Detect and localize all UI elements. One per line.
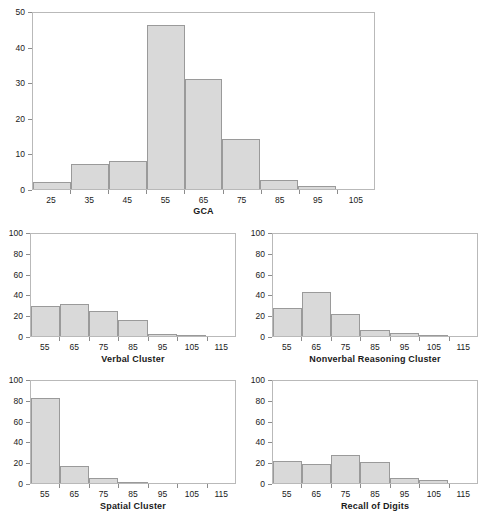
y-tick-verbal-cluster-0 bbox=[26, 337, 30, 338]
y-tick-label-nonverbal-reasoning-cluster-100: 100 bbox=[251, 228, 265, 238]
panel-gca: 01020304050 2535455565758595105 GCA bbox=[0, 0, 400, 220]
y-tick-label-spatial-cluster-20: 20 bbox=[14, 458, 23, 468]
y-tick-gca-50 bbox=[28, 12, 32, 13]
bar-recall-of-digits-65 bbox=[302, 464, 331, 483]
bar-spatial-cluster-65 bbox=[60, 466, 89, 483]
bar-spatial-cluster-75 bbox=[89, 478, 118, 483]
x-tick-label-gca-95: 95 bbox=[313, 195, 322, 205]
bar-gca-55 bbox=[147, 25, 185, 189]
x-tick-gca-8 bbox=[337, 190, 338, 194]
bar-verbal-cluster-65 bbox=[60, 304, 89, 336]
x-tick-label-nonverbal-reasoning-cluster-75: 75 bbox=[341, 342, 350, 352]
y-tick-label-gca-0: 0 bbox=[20, 185, 25, 195]
y-tick-label-recall-of-digits-80: 80 bbox=[256, 396, 265, 406]
bar-recall-of-digits-105 bbox=[419, 480, 448, 483]
y-tick-verbal-cluster-60 bbox=[26, 275, 30, 276]
y-tick-label-spatial-cluster-100: 100 bbox=[9, 375, 23, 385]
bar-verbal-cluster-105 bbox=[177, 335, 206, 336]
x-tick-label-gca-65: 65 bbox=[199, 195, 208, 205]
y-tick-nonverbal-reasoning-cluster-0 bbox=[268, 337, 272, 338]
y-tick-label-spatial-cluster-80: 80 bbox=[14, 396, 23, 406]
x-tick-label-verbal-cluster-105: 105 bbox=[185, 342, 199, 352]
y-tick-nonverbal-reasoning-cluster-40 bbox=[268, 295, 272, 296]
x-tick-recall-of-digits-6 bbox=[449, 484, 450, 488]
x-tick-nonverbal-reasoning-cluster-4 bbox=[390, 337, 391, 341]
x-tick-gca-7 bbox=[299, 190, 300, 194]
x-tick-nonverbal-reasoning-cluster-2 bbox=[331, 337, 332, 341]
x-tick-label-recall-of-digits-65: 65 bbox=[311, 489, 320, 499]
y-tick-label-recall-of-digits-20: 20 bbox=[256, 458, 265, 468]
bar-recall-of-digits-95 bbox=[390, 478, 419, 483]
y-tick-label-recall-of-digits-60: 60 bbox=[256, 417, 265, 427]
x-tick-label-spatial-cluster-95: 95 bbox=[158, 489, 167, 499]
y-tick-label-verbal-cluster-0: 0 bbox=[18, 332, 23, 342]
y-tick-verbal-cluster-100 bbox=[26, 233, 30, 234]
plot-area-spatial-cluster bbox=[30, 380, 236, 484]
y-tick-nonverbal-reasoning-cluster-60 bbox=[268, 275, 272, 276]
x-tick-label-spatial-cluster-115: 115 bbox=[215, 489, 229, 499]
x-tick-label-verbal-cluster-65: 65 bbox=[69, 342, 78, 352]
y-tick-spatial-cluster-60 bbox=[26, 422, 30, 423]
bar-verbal-cluster-55 bbox=[31, 306, 60, 336]
y-tick-gca-40 bbox=[28, 48, 32, 49]
y-tick-spatial-cluster-80 bbox=[26, 401, 30, 402]
y-tick-label-verbal-cluster-20: 20 bbox=[14, 311, 23, 321]
y-tick-recall-of-digits-100 bbox=[268, 380, 272, 381]
x-tick-recall-of-digits-1 bbox=[301, 484, 302, 488]
y-tick-label-verbal-cluster-80: 80 bbox=[14, 249, 23, 259]
x-tick-label-gca-75: 75 bbox=[237, 195, 246, 205]
y-tick-label-gca-30: 30 bbox=[16, 78, 25, 88]
y-tick-label-gca-50: 50 bbox=[16, 7, 25, 17]
bar-verbal-cluster-95 bbox=[148, 334, 177, 336]
y-tick-label-recall-of-digits-40: 40 bbox=[256, 437, 265, 447]
x-tick-label-verbal-cluster-115: 115 bbox=[215, 342, 229, 352]
bar-spatial-cluster-55 bbox=[31, 398, 60, 483]
y-tick-label-nonverbal-reasoning-cluster-20: 20 bbox=[256, 311, 265, 321]
x-tick-label-verbal-cluster-95: 95 bbox=[158, 342, 167, 352]
x-tick-label-verbal-cluster-85: 85 bbox=[128, 342, 137, 352]
y-tick-label-spatial-cluster-0: 0 bbox=[18, 479, 23, 489]
x-tick-spatial-cluster-5 bbox=[177, 484, 178, 488]
x-tick-label-gca-25: 25 bbox=[46, 195, 55, 205]
bar-nonverbal-reasoning-cluster-55 bbox=[273, 308, 302, 336]
y-tick-label-gca-20: 20 bbox=[16, 114, 25, 124]
y-tick-recall-of-digits-80 bbox=[268, 401, 272, 402]
x-tick-label-nonverbal-reasoning-cluster-55: 55 bbox=[282, 342, 291, 352]
y-tick-label-verbal-cluster-100: 100 bbox=[9, 228, 23, 238]
x-tick-gca-5 bbox=[223, 190, 224, 194]
y-tick-label-spatial-cluster-60: 60 bbox=[14, 417, 23, 427]
x-tick-gca-4 bbox=[184, 190, 185, 194]
y-tick-label-verbal-cluster-40: 40 bbox=[14, 290, 23, 300]
x-tick-nonverbal-reasoning-cluster-6 bbox=[449, 337, 450, 341]
x-tick-label-spatial-cluster-65: 65 bbox=[69, 489, 78, 499]
x-tick-label-nonverbal-reasoning-cluster-85: 85 bbox=[370, 342, 379, 352]
panel-nonverbal-reasoning-cluster: 020406080100 5565758595105115 Nonverbal … bbox=[244, 228, 489, 370]
x-tick-recall-of-digits-4 bbox=[390, 484, 391, 488]
y-tick-label-nonverbal-reasoning-cluster-40: 40 bbox=[256, 290, 265, 300]
plot-area-recall-of-digits bbox=[272, 380, 478, 484]
plot-area-nonverbal-reasoning-cluster bbox=[272, 233, 478, 337]
bar-series-gca bbox=[33, 13, 374, 189]
y-tick-spatial-cluster-40 bbox=[26, 442, 30, 443]
x-tick-recall-of-digits-5 bbox=[419, 484, 420, 488]
y-tick-verbal-cluster-80 bbox=[26, 254, 30, 255]
y-tick-verbal-cluster-20 bbox=[26, 316, 30, 317]
y-tick-recall-of-digits-40 bbox=[268, 442, 272, 443]
bar-recall-of-digits-85 bbox=[360, 462, 389, 483]
x-tick-gca-6 bbox=[261, 190, 262, 194]
bar-nonverbal-reasoning-cluster-65 bbox=[302, 292, 331, 336]
y-tick-recall-of-digits-60 bbox=[268, 422, 272, 423]
y-tick-label-recall-of-digits-0: 0 bbox=[260, 479, 265, 489]
bar-verbal-cluster-85 bbox=[118, 320, 147, 336]
y-tick-spatial-cluster-0 bbox=[26, 484, 30, 485]
bar-spatial-cluster-85 bbox=[118, 482, 147, 483]
x-tick-spatial-cluster-3 bbox=[118, 484, 119, 488]
x-tick-nonverbal-reasoning-cluster-5 bbox=[419, 337, 420, 341]
x-tick-verbal-cluster-5 bbox=[177, 337, 178, 341]
y-tick-label-recall-of-digits-100: 100 bbox=[251, 375, 265, 385]
y-tick-label-nonverbal-reasoning-cluster-60: 60 bbox=[256, 270, 265, 280]
y-tick-label-gca-10: 10 bbox=[16, 149, 25, 159]
y-tick-nonverbal-reasoning-cluster-80 bbox=[268, 254, 272, 255]
x-tick-label-recall-of-digits-95: 95 bbox=[400, 489, 409, 499]
x-tick-label-nonverbal-reasoning-cluster-65: 65 bbox=[311, 342, 320, 352]
